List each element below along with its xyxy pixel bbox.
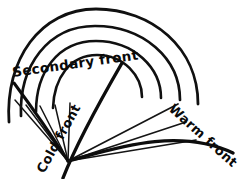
weather-front-diagram: Secondary front Cold front Warm front: [0, 0, 239, 179]
diagram-canvas: Secondary front Cold front Warm front: [0, 0, 239, 179]
